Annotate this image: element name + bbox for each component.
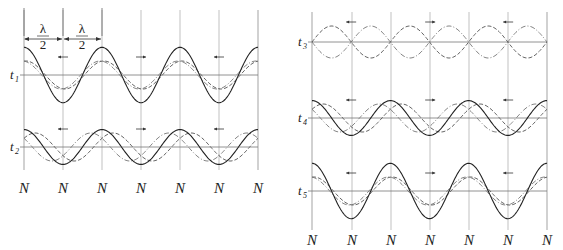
time-label: t (10, 139, 14, 154)
time-subscript: 4 (303, 118, 307, 127)
node-label: N (424, 232, 436, 248)
lambda-numerator-2: λ (79, 21, 86, 36)
node-label: N (213, 180, 225, 196)
time-subscript: 1 (15, 75, 19, 84)
node-label: N (385, 232, 397, 248)
time-row-1: t1 (10, 47, 258, 102)
node-label: N (463, 232, 475, 248)
time-row-4: t4 (298, 99, 547, 136)
node-label: N (135, 180, 147, 196)
time-label: t (298, 34, 302, 49)
standing-wave-diagram: NNNNNNNt1t2 NNNNNNNt3t4t5 λ 2 λ 2 (0, 0, 563, 250)
time-row-3: t3 (298, 21, 547, 59)
time-label: t (298, 110, 302, 125)
time-label: t (298, 183, 302, 198)
node-label: N (346, 232, 358, 248)
time-subscript: 3 (302, 42, 307, 51)
time-row-2: t2 (10, 128, 258, 165)
lambda-denominator-2: 2 (79, 37, 86, 52)
lambda-numerator-1: λ (40, 21, 47, 36)
node-label: N (18, 180, 30, 196)
time-row-5: t5 (298, 163, 547, 218)
node-label: N (57, 180, 69, 196)
time-subscript: 5 (303, 191, 307, 200)
time-subscript: 2 (15, 147, 19, 156)
node-label: N (252, 180, 264, 196)
lambda-denominator-1: 2 (40, 37, 47, 52)
node-label: N (96, 180, 108, 196)
right-panel: NNNNNNNt3t4t5 (298, 12, 553, 248)
node-label: N (306, 232, 318, 248)
node-label: N (502, 232, 514, 248)
left-panel: NNNNNNNt1t2 (10, 10, 264, 196)
node-label: N (541, 232, 553, 248)
time-label: t (10, 67, 14, 82)
node-label: N (174, 180, 186, 196)
